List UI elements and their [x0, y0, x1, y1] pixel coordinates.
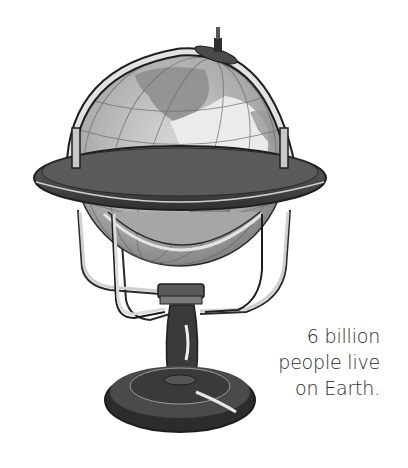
caption: 6 billion people live on Earth.	[278, 323, 380, 401]
caption-line-3: on Earth.	[278, 375, 380, 401]
caption-line-2: people live	[278, 349, 380, 375]
caption-line-1: 6 billion	[278, 323, 380, 349]
stand-base	[105, 366, 255, 432]
